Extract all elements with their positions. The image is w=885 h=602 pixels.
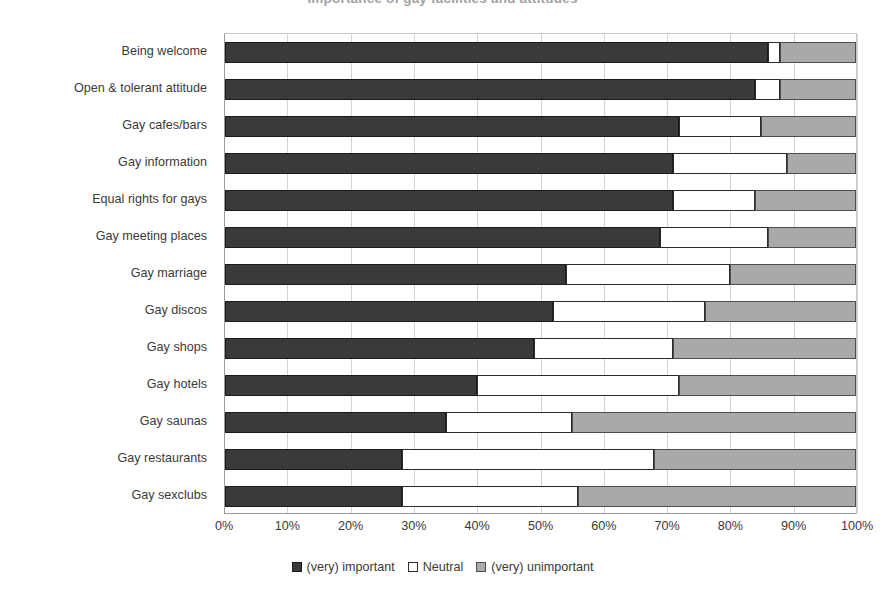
bar-row [225,478,856,515]
y-axis-tick-label: Gay information [0,144,216,181]
y-axis-tick-label: Gay discos [0,292,216,329]
bar-segment-important[interactable] [225,264,566,285]
bar-row [225,441,856,478]
bar-segment-important[interactable] [225,190,673,211]
chart-legend: (very) importantNeutral(very) unimportan… [0,560,885,574]
stacked-bar[interactable] [225,264,856,285]
legend-item[interactable]: (very) unimportant [476,560,593,574]
stacked-bar[interactable] [225,42,856,63]
bar-segment-unimportant[interactable] [673,338,856,359]
bar-row [225,34,856,71]
legend-label: Neutral [423,560,464,574]
bar-segment-neutral[interactable] [566,264,730,285]
bar-segment-neutral[interactable] [755,79,780,100]
bar-segment-important[interactable] [225,153,673,174]
stacked-bar[interactable] [225,153,856,174]
bar-segment-unimportant[interactable] [654,449,856,470]
bar-row [225,367,856,404]
bar-segment-neutral[interactable] [679,116,761,137]
bar-segment-unimportant[interactable] [572,412,856,433]
bar-segment-unimportant[interactable] [755,190,856,211]
bar-row [225,404,856,441]
bar-segment-neutral[interactable] [673,153,787,174]
bar-segment-important[interactable] [225,79,755,100]
stacked-bar[interactable] [225,338,856,359]
x-axis-labels: 0%10%20%30%40%50%60%70%80%90%100% [0,519,885,539]
plot-area [224,33,857,514]
stacked-bar[interactable] [225,449,856,470]
bar-segment-neutral[interactable] [402,486,579,507]
x-axis-tick-label: 90% [759,519,829,533]
bar-row [225,145,856,182]
x-axis-tick-label: 20% [316,519,386,533]
stacked-bar[interactable] [225,301,856,322]
filled-dark-square-icon [292,562,302,572]
bar-segment-neutral[interactable] [660,227,767,248]
stacked-bar[interactable] [225,79,856,100]
bar-row [225,108,856,145]
bar-segment-important[interactable] [225,338,534,359]
bar-row [225,330,856,367]
x-axis-tick-label: 70% [632,519,702,533]
x-axis-tick-label: 80% [695,519,765,533]
y-axis-tick-label: Gay sexclubs [0,477,216,514]
y-axis-tick-label: Gay hotels [0,366,216,403]
x-axis-tick-label: 50% [506,519,576,533]
bar-segment-important[interactable] [225,486,402,507]
bar-segment-unimportant[interactable] [730,264,856,285]
bar-segment-neutral[interactable] [477,375,679,396]
y-axis-tick-label: Gay restaurants [0,440,216,477]
y-axis-tick-label: Gay meeting places [0,218,216,255]
x-axis-tick-label: 40% [442,519,512,533]
y-axis-labels: Being welcomeOpen & tolerant attitudeGay… [0,33,216,514]
bar-segment-important[interactable] [225,42,768,63]
y-axis-tick-label: Open & tolerant attitude [0,70,216,107]
legend-label: (very) important [307,560,395,574]
y-axis-tick-label: Gay marriage [0,255,216,292]
bar-segment-unimportant[interactable] [761,116,856,137]
bar-segment-unimportant[interactable] [780,42,856,63]
bar-row [225,219,856,256]
bar-row [225,293,856,330]
bar-segment-neutral[interactable] [553,301,704,322]
x-axis-tick-label: 10% [252,519,322,533]
bar-segment-important[interactable] [225,449,402,470]
bar-segment-unimportant[interactable] [780,79,856,100]
y-axis-tick-label: Gay shops [0,329,216,366]
stacked-bar[interactable] [225,190,856,211]
bar-segment-important[interactable] [225,412,446,433]
filled-gray-square-icon [476,562,486,572]
bar-row [225,182,856,219]
legend-item[interactable]: (very) important [292,560,395,574]
bar-segment-neutral[interactable] [446,412,572,433]
stacked-bar[interactable] [225,227,856,248]
bar-segment-neutral[interactable] [673,190,755,211]
y-axis-tick-label: Gay saunas [0,403,216,440]
x-axis-tick-label: 0% [189,519,259,533]
bar-segment-important[interactable] [225,227,660,248]
stacked-bar[interactable] [225,375,856,396]
legend-item[interactable]: Neutral [408,560,464,574]
bar-segment-important[interactable] [225,116,679,137]
stacked-bar[interactable] [225,116,856,137]
stacked-bar[interactable] [225,486,856,507]
bar-segment-unimportant[interactable] [705,301,856,322]
x-axis-tick-label: 100% [822,519,885,533]
chart-figure: Importance of gay facilities and attitud… [0,0,885,602]
bar-segment-neutral[interactable] [534,338,673,359]
y-axis-tick-label: Equal rights for gays [0,181,216,218]
hollow-white-square-icon [408,562,418,572]
bar-segment-neutral[interactable] [768,42,781,63]
bar-segment-unimportant[interactable] [768,227,856,248]
bar-segment-unimportant[interactable] [679,375,856,396]
bar-segment-neutral[interactable] [402,449,654,470]
x-axis-tick-label: 30% [379,519,449,533]
bar-segment-important[interactable] [225,301,553,322]
bar-row [225,256,856,293]
stacked-bar[interactable] [225,412,856,433]
bar-segment-unimportant[interactable] [787,153,856,174]
chart-title: Importance of gay facilities and attitud… [0,0,885,9]
gridline [857,34,858,513]
bar-segment-important[interactable] [225,375,477,396]
bar-segment-unimportant[interactable] [578,486,856,507]
